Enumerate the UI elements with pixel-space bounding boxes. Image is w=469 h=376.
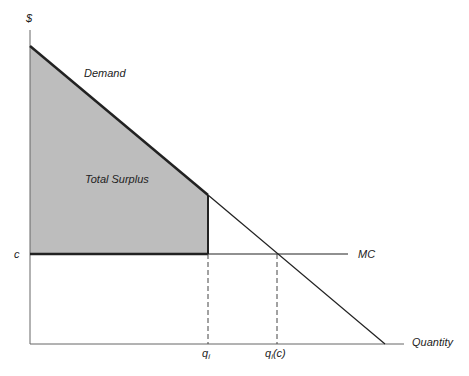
surplus-label: Total Surplus — [85, 173, 149, 185]
mc-label: MC — [358, 248, 375, 260]
demand-label: Demand — [84, 67, 126, 79]
surplus-diagram: $ Demand Total Surplus MC c Quantity qi … — [0, 0, 469, 376]
x-axis-label: Quantity — [412, 336, 454, 348]
qi-tick-label: qi — [202, 347, 210, 361]
demand-line — [208, 195, 385, 344]
c-tick-label: c — [14, 248, 20, 260]
qic-tick-label: qi(c) — [265, 347, 286, 361]
y-axis-label: $ — [25, 12, 33, 24]
